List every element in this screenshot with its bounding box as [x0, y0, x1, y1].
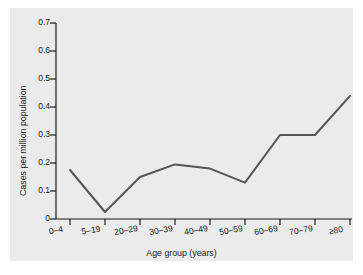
y-tick-marks [50, 23, 56, 219]
x-tick-marks [70, 219, 350, 225]
data-series-line [70, 96, 350, 212]
chart-svg [0, 0, 363, 275]
chart-figure: Cases per million population 0.7 0.6 0.5… [0, 0, 363, 275]
